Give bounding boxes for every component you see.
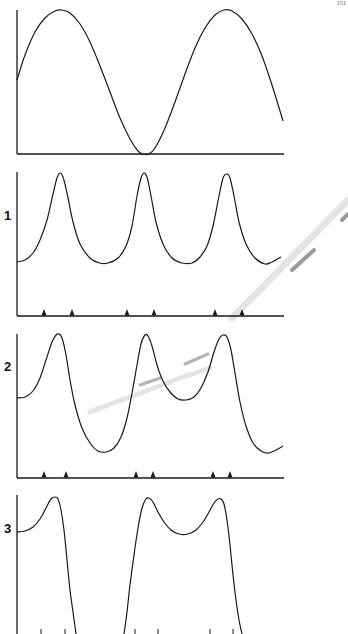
event-marker-icon	[42, 309, 47, 316]
event-marker-icon	[152, 309, 157, 316]
waveform-figure	[0, 0, 348, 634]
event-marker-icon	[64, 471, 69, 478]
waveform-curve	[17, 497, 76, 634]
event-marker-icon	[125, 309, 130, 316]
waveform-curve	[17, 173, 281, 264]
event-marker-icon	[70, 309, 75, 316]
pencil-band	[342, 214, 348, 220]
panel-reference	[17, 10, 284, 155]
event-marker-icon	[228, 471, 233, 478]
panel-response-2	[17, 334, 284, 478]
waveform-curve	[124, 498, 242, 634]
pencil-shadow-band	[185, 354, 208, 364]
waveform-panels	[17, 10, 284, 634]
pencil-shadow	[90, 368, 210, 412]
panel-response-3	[17, 495, 242, 634]
waveform-curve	[17, 10, 283, 155]
event-marker-icon	[211, 471, 216, 478]
event-marker-icon	[151, 471, 156, 478]
pencil-shaft	[232, 200, 348, 318]
panel-response-1	[17, 172, 284, 316]
waveform-curve	[17, 334, 283, 453]
pencil-mark-artifact	[90, 200, 348, 412]
event-marker-icon	[213, 309, 218, 316]
pencil-shadow-band	[140, 378, 160, 385]
event-marker-icon	[42, 471, 47, 478]
event-marker-icon	[134, 471, 139, 478]
